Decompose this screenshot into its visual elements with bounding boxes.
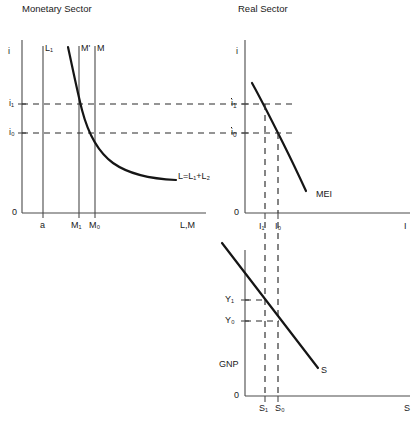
monetary-y-axis-label: i [8,47,10,56]
monetary-xtick-label-M0: M₀ [89,221,100,230]
diagram-canvas [0,0,419,427]
curve-liquidity-preference [68,47,176,180]
curve-label-mei: MEI [316,190,332,199]
real-ytick-label-i0: i0 [231,128,237,137]
monetary-xtick-label-a: a [40,221,45,230]
monetary-ytick-label-i0: i₀ [9,128,15,137]
monetary-origin-label: 0 [12,208,17,217]
savings-x-axis-label: S [404,404,410,413]
curve-label-liquidity-preference: L=L₁+L₂ [178,172,210,181]
savings-origin-label: 0 [234,391,239,400]
real-x-axis-label: I [404,222,407,231]
savings-xtick-label-S0: S₀ [275,404,285,413]
real-xtick-label-I1: I₁ [259,222,265,231]
real-origin-label: 0 [234,208,239,217]
curve-savings [222,243,318,368]
monetary-ytick-label-i1: i₁ [9,99,14,108]
monetary-vline-label-M: M [97,44,105,53]
real-y-axis-label: i [236,47,238,56]
real-ytick-label-i1: i1 [231,99,237,108]
monetary-xtick-label-M1: M₁ [71,221,82,230]
savings-y-axis-label: GNP [219,360,239,369]
savings-ytick-label-Y1: Y₁ [225,295,234,304]
curve-label-savings: S [321,366,327,375]
curve-mei [252,83,306,191]
monetary-vline-label-L1: L₁ [45,44,53,53]
real-xtick-label-I0: I₀ [275,222,281,231]
savings-ytick-label-Y0: Y₀ [225,316,235,325]
monetary-vline-label-Mprime: M' [81,44,90,53]
savings-xtick-label-S1: S₁ [259,404,268,413]
monetary-x-axis-label: L,M [180,221,195,230]
